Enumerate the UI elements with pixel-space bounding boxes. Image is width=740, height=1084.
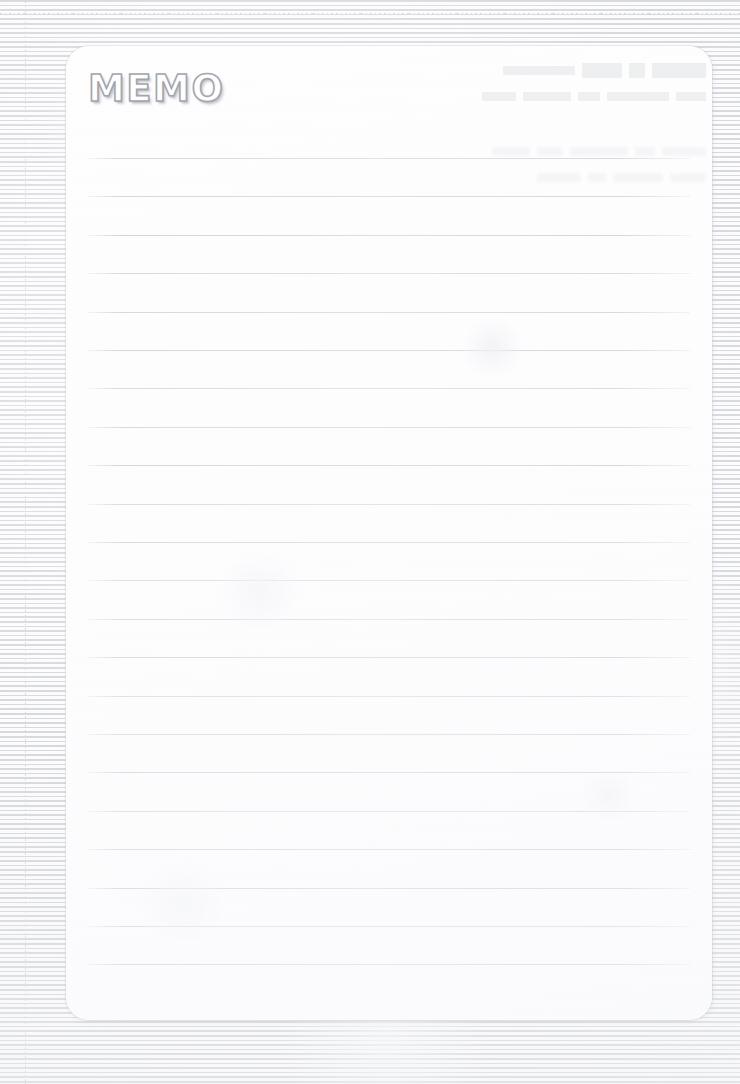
- bleed-through-text: [406, 60, 706, 164]
- rule-line: [88, 772, 690, 773]
- rule-line: [88, 465, 690, 466]
- rule-line: [88, 657, 690, 658]
- bleed-through-word: [503, 66, 575, 75]
- bleed-through-word: [670, 173, 706, 182]
- rule-line: [88, 350, 690, 351]
- bleed-through-word: [662, 147, 706, 156]
- bleed-through-word: [537, 147, 563, 156]
- rule-line: [88, 580, 690, 581]
- rule-line: [88, 504, 690, 505]
- bleed-through-word: [570, 147, 628, 156]
- rule-line: [88, 427, 690, 428]
- rule-line: [88, 888, 690, 889]
- rule-line: [88, 542, 690, 543]
- bleed-through-line: [366, 142, 706, 160]
- bleed-through-word: [607, 92, 669, 101]
- memo-card: MEMO: [66, 46, 712, 1020]
- scanned-memo-page: MEMO: [0, 0, 740, 1084]
- bleed-through-word: [635, 147, 655, 156]
- rule-line: [88, 696, 690, 697]
- page-title: MEMO: [88, 70, 224, 107]
- bleed-through-word: [676, 92, 706, 101]
- rule-line: [88, 235, 690, 236]
- rule-line: [88, 734, 690, 735]
- bleed-through-line: [406, 86, 706, 105]
- bleed-through-word: [537, 173, 581, 182]
- rule-line: [88, 964, 690, 965]
- bleed-through-word: [582, 63, 622, 78]
- rule-line: [88, 158, 690, 159]
- bleed-through-word: [652, 63, 706, 78]
- bleed-through-word: [578, 92, 600, 101]
- bleed-through-line: [366, 168, 706, 182]
- bleed-through-word: [588, 173, 606, 182]
- bleed-through-word: [523, 92, 571, 101]
- rule-line: [88, 273, 690, 274]
- rule-line: [88, 388, 690, 389]
- rule-line: [88, 619, 690, 620]
- ruled-lines: [66, 46, 712, 1020]
- rule-line: [88, 196, 690, 197]
- card-smudge-overlay: [66, 46, 712, 1020]
- bleed-through-word: [629, 63, 645, 78]
- bleed-through-word: [482, 92, 516, 101]
- rule-line: [88, 849, 690, 850]
- bleed-through-text-secondary: [366, 142, 706, 182]
- rule-line: [88, 926, 690, 927]
- rule-line: [88, 312, 690, 313]
- bleed-through-line: [406, 60, 706, 79]
- bleed-through-word: [613, 173, 663, 182]
- rule-line: [88, 811, 690, 812]
- bleed-through-word: [492, 147, 530, 156]
